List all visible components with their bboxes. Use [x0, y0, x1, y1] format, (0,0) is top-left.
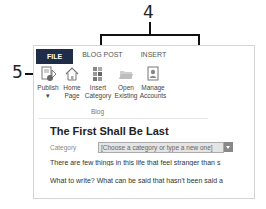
- home-icon: [64, 66, 80, 82]
- callout-4: 4: [143, 2, 154, 22]
- manage-accounts-label-2: Accounts: [139, 92, 167, 100]
- account-icon: [145, 66, 161, 82]
- callout-5: 5: [12, 62, 23, 82]
- publish-icon: [40, 66, 56, 82]
- tab-insert[interactable]: INSERT: [132, 46, 176, 64]
- home-page-label-2: Page: [61, 92, 83, 100]
- ribbon-separator: [38, 118, 208, 119]
- category-dropdown-button[interactable]: [224, 142, 233, 152]
- tab-blog-post[interactable]: BLOG POST: [73, 46, 131, 64]
- manage-accounts-button[interactable]: Manage Accounts: [139, 66, 167, 100]
- ribbon: Publish ▾ Home Page Insert Category Open…: [34, 64, 256, 108]
- publish-label: Publish: [36, 84, 60, 92]
- category-label: Category: [50, 144, 76, 151]
- post-paragraph-2[interactable]: What to write? What can be said that has…: [50, 177, 250, 184]
- manage-accounts-label-1: Manage: [139, 84, 167, 92]
- blog-window: FILE BLOG POST INSERT Publish ▾ Home Pag…: [33, 45, 255, 199]
- publish-button[interactable]: Publish ▾: [36, 66, 60, 100]
- post-paragraph-1[interactable]: There are few things in this life that f…: [50, 159, 250, 166]
- category-icon: [90, 66, 106, 82]
- category-input[interactable]: [Choose a category or type a new one]: [98, 142, 224, 153]
- open-existing-button[interactable]: Open Existing: [114, 66, 138, 100]
- insert-category-button[interactable]: Insert Category: [84, 66, 112, 100]
- tab-file[interactable]: FILE: [36, 49, 73, 64]
- ribbon-tabs: FILE BLOG POST INSERT: [34, 46, 175, 64]
- home-page-button[interactable]: Home Page: [61, 66, 83, 100]
- insert-category-label-1: Insert: [84, 84, 112, 92]
- open-existing-label-2: Existing: [114, 92, 138, 100]
- folder-icon: [118, 66, 134, 82]
- blog-group-label: Blog: [91, 108, 104, 115]
- insert-category-label-2: Category: [84, 92, 112, 100]
- home-page-label-1: Home: [61, 84, 83, 92]
- open-existing-label-1: Open: [114, 84, 138, 92]
- publish-dropdown-arrow[interactable]: ▾: [36, 92, 60, 100]
- callout-4-line-horizontal: [100, 34, 200, 36]
- post-title[interactable]: The First Shall Be Last: [50, 125, 169, 137]
